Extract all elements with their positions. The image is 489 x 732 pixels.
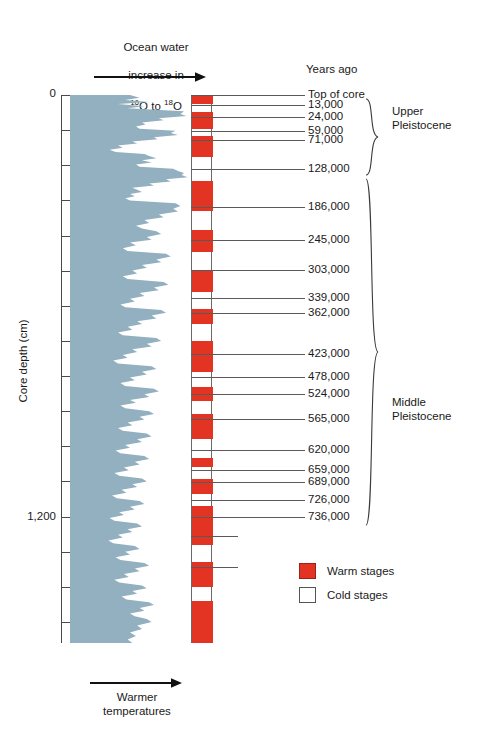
years-ago-column-title: Years ago xyxy=(306,63,357,75)
warmer-temperatures-arrow-icon xyxy=(90,678,182,688)
warm-stage-swatch-icon xyxy=(299,563,316,579)
age-label: 726,000 xyxy=(308,493,350,505)
age-label: 659,000 xyxy=(308,463,350,475)
isotope-curve-plot xyxy=(70,95,190,643)
upper-pleistocene-label: Upper Pleistocene xyxy=(392,104,451,132)
depth-tick-1500 xyxy=(61,622,70,623)
age-label: 478,000 xyxy=(308,370,350,382)
depth-tick-label-1200: 1,200 xyxy=(4,510,56,522)
age-label: 423,000 xyxy=(308,347,350,359)
age-leader-line xyxy=(191,394,305,395)
depth-tick-300 xyxy=(61,200,70,201)
depth-tick-1100 xyxy=(61,481,70,482)
age-leader-line xyxy=(191,105,305,106)
legend: Warm stages Cold stages xyxy=(299,563,394,611)
age-label: 71,000 xyxy=(308,133,343,145)
cold-stage-swatch-icon xyxy=(299,587,316,603)
age-label: 13,000 xyxy=(308,98,343,110)
middle-pleistocene-bracket xyxy=(362,178,386,526)
age-leader-line xyxy=(191,377,305,378)
depth-tick-800 xyxy=(61,376,70,377)
warm-stage-band xyxy=(192,309,213,324)
age-label: 186,000 xyxy=(308,200,350,212)
depth-tick-1300 xyxy=(61,552,70,553)
age-leader-line xyxy=(191,270,305,271)
age-leader-line xyxy=(191,567,238,568)
middle-pleistocene-label: Middle Pleistocene xyxy=(392,395,451,423)
age-label: 128,000 xyxy=(308,162,350,174)
age-label: 362,000 xyxy=(308,306,350,318)
age-leader-line xyxy=(191,240,305,241)
isotope-curve-area xyxy=(70,95,190,643)
age-label: 736,000 xyxy=(308,510,350,522)
warm-stage-band xyxy=(192,458,213,468)
warm-stage-band xyxy=(192,414,213,439)
age-leader-line xyxy=(191,450,305,451)
warm-stage-band xyxy=(192,341,213,373)
age-leader-line xyxy=(191,517,305,518)
age-label: 524,000 xyxy=(308,387,350,399)
depth-tick-500 xyxy=(61,271,70,272)
age-leader-line xyxy=(191,500,305,501)
age-leader-line xyxy=(191,354,305,355)
age-leader-line xyxy=(191,117,305,118)
isotope-annotation-line1: Ocean water xyxy=(86,40,226,54)
warmer-temperatures-annotation: Warmer temperatures xyxy=(62,690,212,718)
depth-tick-700 xyxy=(61,341,70,342)
age-label: 565,000 xyxy=(308,412,350,424)
age-label: 24,000 xyxy=(308,110,343,122)
upper-pleistocene-bracket xyxy=(362,98,386,176)
age-leader-line xyxy=(191,313,305,314)
legend-label-warm: Warm stages xyxy=(327,565,394,577)
depth-tick-100 xyxy=(61,130,70,131)
depth-axis-title: Core depth (cm) xyxy=(17,301,29,421)
depth-axis-line xyxy=(61,95,62,643)
depth-tick-1200 xyxy=(61,517,70,518)
legend-label-cold: Cold stages xyxy=(327,589,388,601)
age-leader-line xyxy=(191,207,305,208)
warm-stage-band xyxy=(192,506,213,545)
warm-stage-band xyxy=(192,95,213,104)
depth-tick-600 xyxy=(61,306,70,307)
depth-tick-400 xyxy=(61,236,70,237)
age-leader-line xyxy=(191,298,305,299)
age-leader-line xyxy=(191,419,305,420)
warm-cold-stage-column xyxy=(191,95,212,643)
age-leader-line xyxy=(191,140,305,141)
age-leader-line xyxy=(191,95,305,96)
warm-stage-band xyxy=(192,136,213,157)
age-label: 303,000 xyxy=(308,263,350,275)
age-leader-line xyxy=(191,131,305,132)
warm-stage-band xyxy=(192,270,213,293)
age-leader-line xyxy=(191,169,305,170)
warm-stage-band xyxy=(192,562,213,587)
age-label: 245,000 xyxy=(308,233,350,245)
depth-tick-0 xyxy=(61,95,70,96)
depth-tick-label-0: 0 xyxy=(4,87,56,99)
warm-stage-band xyxy=(192,479,213,495)
age-leader-line xyxy=(191,536,238,537)
age-leader-line xyxy=(191,482,305,483)
legend-item-warm: Warm stages xyxy=(299,563,394,579)
depth-tick-1400 xyxy=(61,587,70,588)
depth-tick-200 xyxy=(61,165,70,166)
age-leader-line xyxy=(191,470,305,471)
legend-item-cold: Cold stages xyxy=(299,587,394,603)
isotope-curve-fill xyxy=(70,95,188,643)
warm-stage-band xyxy=(192,112,213,129)
depth-tick-1000 xyxy=(61,446,70,447)
age-label: 339,000 xyxy=(308,291,350,303)
depth-tick-900 xyxy=(61,411,70,412)
age-label: 689,000 xyxy=(308,475,350,487)
age-label: 620,000 xyxy=(308,443,350,455)
warm-stage-band xyxy=(192,601,213,643)
isotope-direction-arrow-icon xyxy=(94,72,206,82)
